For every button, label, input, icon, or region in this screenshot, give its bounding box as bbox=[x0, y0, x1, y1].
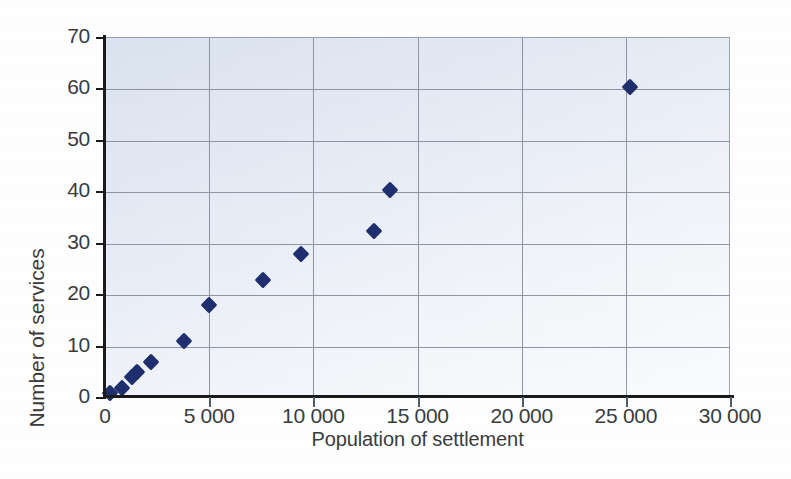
y-axis-tick bbox=[96, 88, 105, 90]
y-axis-tick-label: 70 bbox=[28, 24, 90, 48]
y-axis-tick-label: 50 bbox=[28, 127, 90, 151]
y-axis-tick bbox=[96, 37, 105, 39]
y-axis-tick-label: 60 bbox=[28, 75, 90, 99]
x-axis-tick-label: 15 000 bbox=[386, 404, 448, 428]
y-axis-title: Number of services bbox=[19, 158, 55, 479]
x-axis-title: Population of settlement bbox=[105, 428, 730, 451]
vertical-gridline bbox=[313, 38, 314, 398]
data-point bbox=[622, 78, 639, 95]
y-axis-tick-label: 40 bbox=[28, 178, 90, 202]
y-axis-tick bbox=[96, 397, 105, 399]
vertical-gridline bbox=[418, 38, 419, 398]
data-point bbox=[365, 222, 382, 239]
y-axis-tick bbox=[96, 140, 105, 142]
data-point bbox=[255, 271, 272, 288]
vertical-gridline bbox=[522, 38, 523, 398]
y-axis-tick bbox=[96, 191, 105, 193]
y-axis-tick bbox=[96, 346, 105, 348]
data-point bbox=[142, 354, 159, 371]
y-axis-tick-label: 0 bbox=[28, 384, 90, 408]
vertical-gridline bbox=[209, 38, 210, 398]
x-axis-tick-label: 5 000 bbox=[184, 404, 235, 428]
x-axis-tick-label: 30 000 bbox=[699, 404, 761, 428]
data-point bbox=[292, 246, 309, 263]
data-point bbox=[201, 297, 218, 314]
x-axis-tick-label: 10 000 bbox=[282, 404, 344, 428]
x-axis-tick-label: 20 000 bbox=[490, 404, 552, 428]
y-axis-tick bbox=[96, 243, 105, 245]
y-axis-tick-label: 10 bbox=[28, 333, 90, 357]
plot-area bbox=[105, 37, 730, 397]
y-axis-tick-label: 20 bbox=[28, 281, 90, 305]
y-axis-tick-label: 30 bbox=[28, 230, 90, 254]
x-axis-tick-label: 25 000 bbox=[595, 404, 657, 428]
scatter-chart-figure: Number of services 01020304050607005 000… bbox=[0, 0, 791, 479]
data-point bbox=[382, 181, 399, 198]
y-axis-tick bbox=[96, 294, 105, 296]
x-axis-tick-label: 0 bbox=[99, 404, 110, 428]
